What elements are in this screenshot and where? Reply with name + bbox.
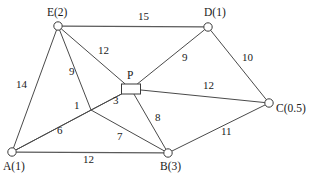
graph-node-d[interactable] [204,23,212,31]
node-layer [8,22,273,157]
edge-weight-e-a: 14 [16,79,27,90]
node-label-a: A(1) [3,161,25,173]
node-label-b: B(3) [160,161,181,173]
graph-edge-d-c [211,30,267,99]
edge-weight-a-j: 1 [74,100,80,111]
graph-node-a[interactable] [8,148,16,156]
graph-edge-p-c [141,90,265,103]
diagram-canvas: 151491291012316781211E(2)D(1)C(0.5)A(1)B… [0,0,311,181]
graph-edge-b-c [172,105,265,151]
graph-edge-e-d [62,26,204,27]
edge-weight-d-p: 9 [182,52,188,63]
edge-weight-a-p: 6 [57,125,63,136]
node-label-e: E(2) [47,7,67,19]
edge-weight-e-p: 12 [98,45,109,56]
edge-weight-a-b: 12 [83,154,94,165]
graph-svg [0,0,311,181]
edge-weight-p-c: 12 [203,80,214,91]
edge-weight-p-b: 8 [155,112,161,123]
edge-weight-e-j: 9 [69,66,75,77]
edge-weight-j-b: 7 [117,131,123,142]
graph-node-c[interactable] [265,99,273,107]
graph-edge-d-p [137,30,205,84]
graph-node-p[interactable] [122,84,141,94]
graph-edge-a-p [16,94,122,150]
node-label-c: C(0.5) [276,103,306,115]
node-label-d: D(1) [204,7,226,19]
graph-node-e[interactable] [54,22,62,30]
edge-weight-e-d: 15 [138,11,149,22]
graph-edge-j-b [91,110,164,151]
graph-edge-e-j [60,30,91,110]
edge-weight-j-p: 3 [113,95,119,106]
graph-node-b[interactable] [164,149,172,157]
node-label-p: P [127,70,133,82]
edge-weight-b-c: 11 [221,126,232,137]
graph-edge-p-b [134,94,166,149]
edge-weight-d-c: 10 [242,52,253,63]
